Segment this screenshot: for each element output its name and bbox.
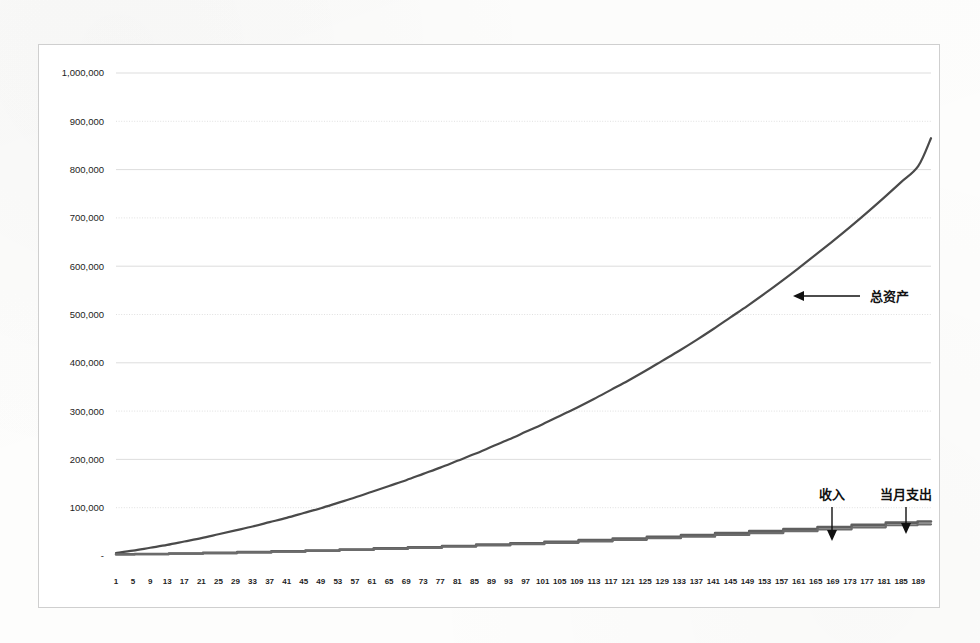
x-tick-label: 5 (131, 577, 136, 586)
x-tick-label: 97 (521, 577, 530, 586)
x-tick-label: 137 (690, 577, 704, 586)
x-tick-label: 157 (775, 577, 789, 586)
y-axis-tick-labels: 1,000,000900,000800,000700,000600,000500… (62, 67, 104, 561)
annotation-arrowhead-total-assets (793, 291, 804, 301)
annotation-arrowhead-income (827, 530, 837, 541)
x-tick-label: 141 (707, 577, 721, 586)
x-tick-label: 173 (843, 577, 857, 586)
x-tick-label: 109 (570, 577, 584, 586)
y-tick-label: 600,000 (70, 261, 104, 272)
annotation-label-total-assets: 总资产 (870, 289, 909, 304)
x-tick-label: 149 (741, 577, 755, 586)
x-tick-label: 85 (470, 577, 479, 586)
x-tick-label: 57 (350, 577, 359, 586)
x-tick-label: 49 (316, 577, 325, 586)
x-tick-label: 105 (553, 577, 567, 586)
x-tick-label: 33 (248, 577, 257, 586)
annotation-label-monthly-expense: 当月支出 (880, 487, 932, 502)
line-chart: 1,000,000900,000800,000700,000600,000500… (38, 44, 940, 608)
y-tick-label: 700,000 (70, 212, 104, 223)
y-tick-label: 400,000 (70, 357, 104, 368)
y-tick-label: - (101, 550, 104, 561)
x-tick-label: 73 (419, 577, 428, 586)
chart-series (116, 138, 931, 554)
annotation-label-income: 收入 (819, 487, 845, 502)
x-tick-label: 129 (655, 577, 669, 586)
x-tick-label: 53 (333, 577, 342, 586)
x-tick-label: 101 (536, 577, 550, 586)
x-tick-label: 29 (231, 577, 240, 586)
x-tick-label: 17 (180, 577, 189, 586)
x-tick-label: 145 (724, 577, 738, 586)
x-tick-label: 37 (265, 577, 274, 586)
x-tick-label: 1 (114, 577, 119, 586)
x-tick-label: 69 (402, 577, 411, 586)
x-tick-label: 89 (487, 577, 496, 586)
x-tick-label: 61 (368, 577, 377, 586)
x-tick-label: 125 (638, 577, 652, 586)
x-tick-label: 9 (148, 577, 153, 586)
series-line-total-assets (116, 138, 931, 553)
x-tick-label: 133 (673, 577, 687, 586)
x-tick-label: 81 (453, 577, 462, 586)
gridlines (116, 73, 931, 508)
y-tick-label: 300,000 (70, 406, 104, 417)
x-tick-label: 181 (877, 577, 891, 586)
x-axis-tick-labels: 1591317212529333741454953576165697377818… (114, 577, 926, 586)
x-tick-label: 177 (860, 577, 874, 586)
x-tick-label: 185 (894, 577, 908, 586)
series-line-income (116, 521, 931, 554)
chart-annotations: 总资产收入当月支出 (793, 289, 932, 541)
x-tick-label: 93 (504, 577, 513, 586)
y-tick-label: 200,000 (70, 454, 104, 465)
x-tick-label: 189 (912, 577, 926, 586)
y-tick-label: 800,000 (70, 164, 104, 175)
x-tick-label: 113 (587, 577, 600, 586)
x-tick-label: 65 (385, 577, 394, 586)
y-tick-label: 900,000 (70, 116, 104, 127)
x-tick-label: 121 (621, 577, 635, 586)
x-tick-label: 117 (605, 577, 618, 586)
y-tick-label: 500,000 (70, 309, 104, 320)
x-tick-label: 169 (826, 577, 840, 586)
x-tick-label: 13 (163, 577, 172, 586)
x-tick-label: 41 (282, 577, 291, 586)
x-tick-label: 165 (809, 577, 823, 586)
x-tick-label: 161 (792, 577, 806, 586)
x-tick-label: 21 (197, 577, 206, 586)
x-tick-label: 45 (299, 577, 308, 586)
x-tick-label: 153 (758, 577, 772, 586)
x-tick-label: 25 (214, 577, 223, 586)
annotation-arrowhead-monthly-expense (901, 523, 911, 534)
y-tick-label: 100,000 (70, 502, 104, 513)
y-tick-label: 1,000,000 (62, 67, 104, 78)
x-tick-label: 77 (436, 577, 445, 586)
